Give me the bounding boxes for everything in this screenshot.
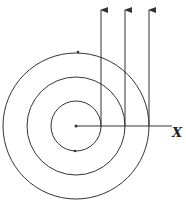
x-axis-label: X bbox=[171, 125, 183, 140]
center-point bbox=[75, 125, 78, 128]
dot bbox=[77, 51, 80, 54]
diagram-canvas: X bbox=[0, 0, 186, 200]
vertical-arrows bbox=[101, 10, 149, 126]
dot bbox=[74, 150, 77, 153]
